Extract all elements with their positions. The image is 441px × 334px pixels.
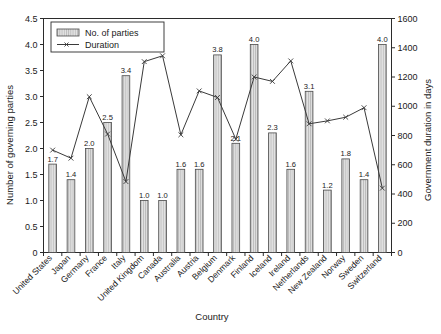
y2-tick-label: 1600 bbox=[398, 14, 418, 24]
bar bbox=[342, 159, 350, 253]
bar-value-label: 4.0 bbox=[377, 35, 388, 44]
bar bbox=[269, 133, 277, 253]
y-axis-title: Number of governing parties bbox=[4, 85, 15, 205]
line-marker bbox=[50, 148, 55, 153]
y-tick-label: 3.0 bbox=[25, 92, 38, 102]
bar-series bbox=[49, 45, 386, 253]
bar-value-label: 1.8 bbox=[340, 149, 351, 158]
y-tick-label: 2.0 bbox=[25, 144, 38, 154]
x-axis-title: Country bbox=[195, 311, 229, 322]
legend-swatch-bar bbox=[57, 29, 79, 36]
y2-tick-label: 1400 bbox=[398, 43, 418, 53]
chart-container: Number of governing parties Government d… bbox=[0, 0, 441, 334]
bar-value-label: 2.5 bbox=[102, 113, 113, 122]
line-marker bbox=[197, 88, 202, 93]
bar bbox=[287, 169, 295, 252]
bar-value-label: 1.4 bbox=[359, 170, 370, 179]
y2-tick-label: 0 bbox=[398, 248, 403, 258]
y-tick-label: 2.5 bbox=[25, 118, 38, 128]
bar-value-label: 1.6 bbox=[285, 160, 296, 169]
bar-value-label: 1.2 bbox=[322, 181, 333, 190]
bar-value-label: 4.0 bbox=[249, 35, 260, 44]
grouped-bar-line-chart: Number of governing parties Government d… bbox=[0, 0, 441, 334]
bar bbox=[360, 180, 368, 253]
y2-tick-label: 1200 bbox=[398, 72, 418, 82]
bar-value-label: 2.3 bbox=[267, 123, 278, 132]
y2-axis-title: Government duration in days bbox=[422, 79, 433, 201]
bar bbox=[140, 201, 148, 253]
y-tick-label: 0.5 bbox=[25, 222, 38, 232]
bar bbox=[250, 45, 258, 253]
y-tick-label: 4.0 bbox=[25, 40, 38, 50]
y-tick-label: 1.0 bbox=[25, 196, 38, 206]
y2-tick-label: 600 bbox=[398, 160, 413, 170]
bar bbox=[378, 45, 386, 253]
x-axis-category-labels: United StatesJapanGermanyFranceItalyUnit… bbox=[11, 252, 384, 303]
bar-value-label: 3.4 bbox=[121, 66, 132, 75]
bar-value-label: 1.6 bbox=[176, 160, 187, 169]
y-tick-label: 1.5 bbox=[25, 170, 38, 180]
y2-tick-label: 400 bbox=[398, 189, 413, 199]
bar bbox=[195, 169, 203, 252]
bar bbox=[177, 169, 185, 252]
x-category-label: United States bbox=[11, 253, 55, 297]
bar bbox=[214, 55, 222, 253]
legend-label-duration: Duration bbox=[85, 40, 119, 50]
bar-value-label: 2.0 bbox=[84, 139, 95, 148]
y2-tick-label: 200 bbox=[398, 218, 413, 228]
y2-tick-label: 1000 bbox=[398, 101, 418, 111]
y-tick-label: 4.5 bbox=[25, 14, 38, 24]
bar bbox=[324, 190, 332, 252]
bar-value-label: 3.8 bbox=[212, 45, 223, 54]
bar bbox=[232, 143, 240, 252]
bar-value-label: 1.0 bbox=[139, 191, 150, 200]
bar-value-label: 3.1 bbox=[304, 82, 315, 91]
y-axis-tick-labels: 00.51.01.52.02.53.03.54.04.5 bbox=[25, 14, 38, 258]
bar bbox=[159, 201, 167, 253]
legend-label-parties: No. of parties bbox=[85, 28, 139, 38]
bar bbox=[49, 164, 57, 252]
bar-value-label: 1.4 bbox=[66, 170, 77, 179]
bar bbox=[85, 149, 93, 253]
y2-axis-tick-labels: 02004006008001000120014001600 bbox=[398, 14, 418, 258]
bar bbox=[67, 180, 75, 253]
y-tick-label: 3.5 bbox=[25, 66, 38, 76]
y2-tick-label: 800 bbox=[398, 131, 413, 141]
bar-value-label: 1.0 bbox=[157, 191, 168, 200]
legend: No. of parties Duration bbox=[51, 22, 164, 52]
y-tick-label: 0 bbox=[32, 248, 37, 258]
bar-value-label: 1.6 bbox=[194, 160, 205, 169]
bar-value-label: 1.7 bbox=[47, 155, 58, 164]
